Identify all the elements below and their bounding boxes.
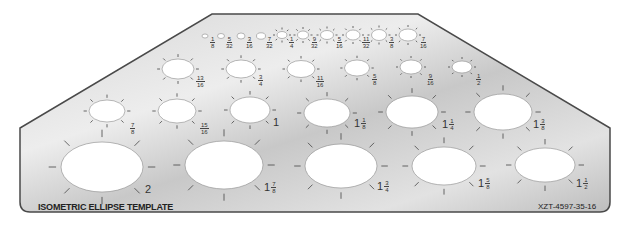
size-fraction: 78 [271, 181, 276, 194]
fraction-numerator: 1 [210, 36, 215, 43]
fraction-numerator: 9 [428, 73, 433, 80]
ellipse-size-label: 916 [427, 65, 434, 86]
size-fraction: 316 [246, 36, 253, 49]
ellipse-hole [474, 94, 532, 130]
ellipse-size-label: 118 [354, 114, 366, 130]
size-fraction: 732 [266, 36, 273, 49]
fraction-denominator: 4 [259, 81, 262, 87]
fraction-numerator: 11 [316, 75, 324, 82]
fraction-denominator: 16 [336, 43, 343, 49]
fraction-denominator: 32 [226, 43, 233, 49]
ellipse-size-label: 1116 [316, 67, 324, 88]
ellipse-size-label: 1132 [362, 28, 370, 49]
fraction-denominator: 8 [131, 129, 134, 135]
size-fraction: 532 [226, 36, 233, 49]
size-whole: 1 [264, 182, 270, 193]
ellipse-size-label: 178 [264, 178, 276, 194]
ellipse-size-label: 34 [258, 66, 263, 87]
ellipse-hole [230, 97, 270, 123]
ellipse-size-label: 12 [476, 65, 481, 86]
ellipse-hole [158, 99, 196, 123]
ellipse-hole [257, 33, 266, 39]
ellipse-size-label: 134 [377, 177, 389, 193]
size-fraction: 38 [389, 36, 394, 49]
ellipse-hole [452, 61, 472, 73]
size-fraction: 516 [336, 36, 343, 49]
size-fraction: 18 [210, 36, 215, 49]
ellipse-size-label: 158 [478, 174, 490, 190]
fraction-denominator: 32 [363, 43, 370, 49]
ellipse-hole [287, 61, 315, 78]
fraction-numerator: 11 [362, 36, 370, 43]
size-whole: 1 [478, 178, 484, 189]
ellipse-hole [237, 33, 245, 39]
fraction-numerator: 5 [337, 36, 342, 43]
ellipse-hole [226, 60, 256, 78]
ellipse-hole [399, 29, 417, 41]
size-fraction: 932 [311, 36, 318, 49]
fraction-numerator: 3 [540, 118, 545, 125]
fraction-denominator: 4 [385, 187, 388, 193]
fraction-denominator: 2 [477, 80, 480, 86]
fraction-denominator: 4 [290, 43, 293, 49]
fraction-denominator: 16 [317, 82, 324, 88]
ellipse-hole [412, 147, 476, 185]
size-fraction: 38 [540, 118, 545, 131]
ellipse-size-label: 532 [226, 28, 233, 49]
ellipse-size-label: 58 [372, 65, 377, 86]
fraction-denominator: 16 [201, 129, 208, 135]
fraction-denominator: 8 [362, 124, 365, 130]
fraction-numerator: 1 [289, 36, 294, 43]
ellipse-hole [218, 34, 225, 39]
size-fraction: 12 [476, 73, 481, 86]
size-fraction: 34 [384, 180, 389, 193]
size-fraction: 716 [420, 36, 427, 49]
fraction-denominator: 8 [272, 188, 275, 194]
fraction-denominator: 16 [246, 43, 253, 49]
template-title: ISOMETRIC ELLIPSE TEMPLATE [38, 202, 173, 212]
size-whole: 2 [145, 184, 151, 195]
ellipse-hole [346, 30, 360, 40]
ellipse-hole [185, 141, 263, 189]
fraction-denominator: 8 [486, 184, 489, 190]
ellipse-size-label: 716 [420, 28, 427, 49]
ellipse-hole [321, 31, 334, 40]
ellipse-hole [515, 148, 575, 182]
fraction-denominator: 8 [541, 125, 544, 131]
size-whole: 1 [576, 178, 582, 189]
fraction-numerator: 1 [476, 73, 481, 80]
fraction-numerator: 3 [384, 180, 389, 187]
fraction-denominator: 16 [427, 80, 434, 86]
size-fraction: 18 [361, 117, 366, 130]
fraction-denominator: 16 [197, 82, 204, 88]
ellipse-size-label: 112 [576, 174, 588, 190]
fraction-denominator: 16 [420, 43, 427, 49]
ellipse-guide [237, 33, 245, 39]
ellipse-size-label: 1 [273, 113, 280, 129]
fraction-denominator: 8 [373, 80, 376, 86]
fraction-numerator: 9 [312, 36, 317, 43]
ellipse-guide [218, 34, 225, 39]
ellipse-hole [277, 32, 287, 39]
ellipse-size-label: 1316 [196, 67, 205, 88]
ellipse-hole [345, 60, 370, 76]
ellipse-guide [202, 34, 208, 38]
ellipse-guide [257, 33, 266, 39]
size-whole: 1 [533, 119, 539, 130]
size-fraction: 1516 [200, 122, 209, 135]
fraction-denominator: 2 [584, 184, 587, 190]
ellipse-size-label: 18 [210, 28, 215, 49]
ellipse-size-label: 2 [145, 180, 152, 196]
size-fraction: 1116 [316, 75, 324, 88]
size-fraction: 34 [258, 74, 263, 87]
size-fraction: 1132 [362, 36, 370, 49]
ellipse-hole [298, 31, 309, 39]
fraction-denominator: 32 [266, 43, 273, 49]
fraction-numerator: 1 [583, 177, 588, 184]
size-whole: 1 [354, 118, 360, 129]
size-fraction: 58 [372, 73, 377, 86]
fraction-denominator: 32 [311, 43, 318, 49]
ellipse-size-label: 732 [266, 28, 273, 49]
fraction-numerator: 5 [485, 177, 490, 184]
ellipse-hole [386, 96, 438, 128]
